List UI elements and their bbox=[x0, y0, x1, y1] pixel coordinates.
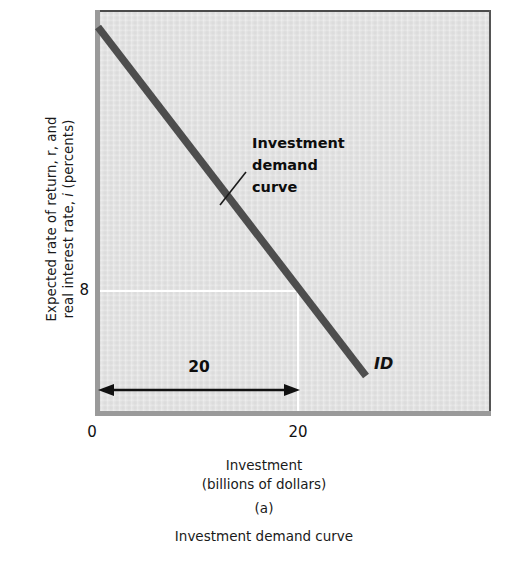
plot-top-border bbox=[95, 10, 491, 12]
panel-letter: (a) bbox=[0, 500, 528, 516]
callout-line-2: demand bbox=[252, 155, 345, 177]
y-axis-title-line-2-pre: real interest rate, bbox=[61, 197, 76, 319]
callout-line-1: Investment bbox=[252, 133, 345, 155]
y-axis-title-symbol-i: i bbox=[61, 193, 76, 197]
plot-right-border bbox=[489, 10, 491, 416]
figure-caption: Investment demand curve bbox=[0, 528, 528, 544]
investment-demand-figure: Expected rate of return, r, and real int… bbox=[0, 0, 528, 565]
x-axis-tick-0: 0 bbox=[83, 423, 101, 441]
span-arrow-label-20: 20 bbox=[176, 358, 222, 376]
y-axis-title-line-2-post: (percents) bbox=[61, 120, 76, 193]
callout-line-3: curve bbox=[252, 177, 345, 199]
reference-line-investment-20 bbox=[297, 290, 299, 411]
x-axis-title-line-1: Investment bbox=[0, 456, 528, 475]
y-axis-tick-8: 8 bbox=[71, 281, 89, 299]
curve-end-label-id: ID bbox=[374, 354, 393, 373]
x-axis-tick-20: 20 bbox=[279, 423, 317, 441]
reference-line-interest-rate-8 bbox=[100, 290, 299, 292]
y-axis-title-line-1: Expected rate of return, r, and bbox=[43, 117, 60, 322]
x-axis-spine bbox=[95, 411, 491, 416]
investment-demand-curve-callout: Investment demand curve bbox=[252, 133, 345, 198]
x-axis-title: Investment (billions of dollars) bbox=[0, 456, 528, 494]
y-axis-title: Expected rate of return, r, and real int… bbox=[37, 19, 83, 419]
x-axis-title-line-2: (billions of dollars) bbox=[0, 475, 528, 494]
y-axis-spine bbox=[95, 10, 100, 416]
plot-area bbox=[95, 10, 491, 416]
